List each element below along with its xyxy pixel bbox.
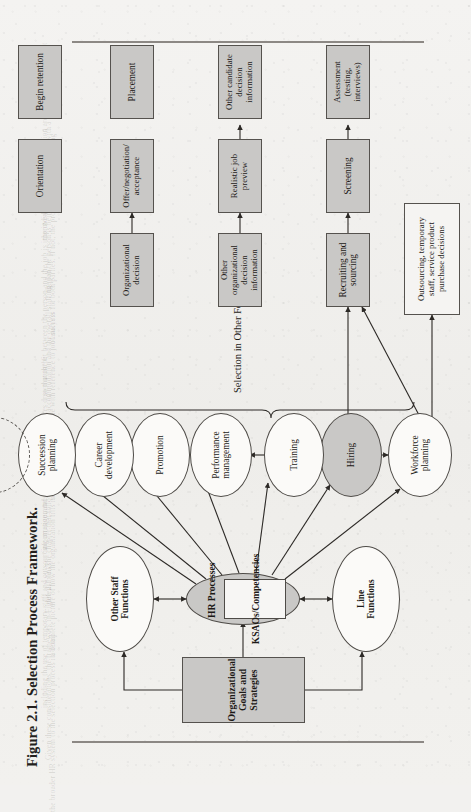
selection-step-organizational-decision[interactable]: Organizational decision [110,233,154,307]
selection-step-realistic-job-preview[interactable]: Realistic job preview [218,139,262,213]
selection-step-other-candidate-decision-information[interactable]: Other candidate decision information [218,45,262,119]
outsourcing-note-box[interactable]: Outsourcing, temporary staff, service pr… [404,203,460,315]
selection-step-other-organizational-decision-information[interactable]: Other organizational decision informatio… [218,233,262,307]
other-staff-functions-ellipse[interactable]: Other Staff Functions [86,546,154,652]
process-ellipse-promotion[interactable]: Promotion [130,413,190,497]
organizational-goals-box[interactable]: Organizational Goals and Strategies [182,657,305,723]
selection-step-placement[interactable]: Placement [110,45,154,119]
selection-step-offer-negotiation-acceptance[interactable]: Offer/negotiation/ acceptance [110,139,154,213]
ksao-competencies-box[interactable]: KSAOs/Competencies [224,579,286,619]
selection-step-begin-retention[interactable]: Begin retention [18,45,62,119]
selection-step-screening[interactable]: Screening [326,139,370,213]
line-functions-ellipse[interactable]: Line Functions [332,546,400,652]
process-ellipse-hiring[interactable]: Hiring [320,413,382,497]
hr-processes-label: HR Processes [206,562,217,618]
selection-step-orientation[interactable]: Orientation [18,139,62,213]
selection-step-assessment-box[interactable]: Assessment (testing, interviews) [326,45,370,119]
process-ellipse-performance-management[interactable]: Performance management [190,413,252,497]
selection-step-recruiting-and-sourcing[interactable]: Recruiting and sourcing [326,233,370,307]
process-ellipse-career-development[interactable]: Career development [74,413,134,497]
process-ellipse-training[interactable]: Training [264,413,324,497]
process-ellipse-workforce-planning[interactable]: Workforce planning [388,413,452,497]
